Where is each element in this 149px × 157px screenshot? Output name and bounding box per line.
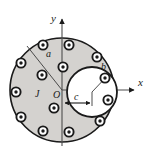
outer-radius-label: a: [46, 48, 51, 59]
offset-label: c: [74, 91, 79, 102]
current-out-of-page-dot: [58, 62, 67, 71]
current-out-of-page-dot: [64, 40, 73, 49]
current-out-of-page-dot: [16, 58, 25, 67]
current-density-label: J: [35, 88, 40, 99]
figure-canvas: y x O a b c J: [0, 0, 149, 157]
current-out-of-page-dot: [16, 112, 25, 121]
current-out-of-page-dot: [95, 116, 104, 125]
current-out-of-page-dot: [49, 103, 58, 112]
y-axis-label: y: [50, 12, 56, 24]
origin-label: O: [53, 89, 60, 100]
x-axis-label: x: [137, 76, 143, 88]
physics-figure-cylindrical-conductor-with-cavity: y x O a b c J: [0, 0, 149, 157]
current-out-of-page-dot: [11, 87, 20, 96]
current-out-of-page-dot: [64, 127, 73, 136]
cavity-radius-label: b: [101, 61, 106, 72]
current-out-of-page-dot: [38, 126, 47, 135]
current-out-of-page-dot: [103, 95, 112, 104]
current-out-of-page-dot: [37, 70, 46, 79]
current-out-of-page-dot: [100, 73, 109, 82]
